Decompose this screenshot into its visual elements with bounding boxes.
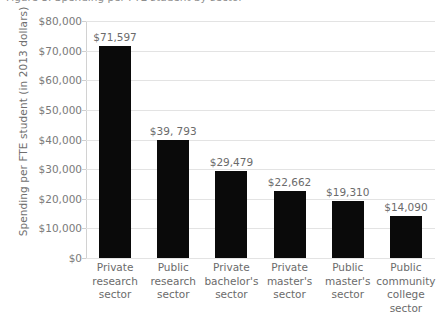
bar-value-label: $22,662 — [268, 176, 311, 188]
bar — [332, 201, 364, 258]
category-label-line: community — [370, 275, 442, 289]
category-label-line: college sector — [370, 288, 442, 315]
cut-off-title: Figure 3. Spending per FTE student by se… — [0, 0, 445, 9]
y-axis-tick-mark — [82, 51, 86, 52]
y-axis-tick-mark — [82, 228, 86, 229]
y-axis-tick-mark — [82, 21, 86, 22]
bar — [157, 140, 189, 258]
bar — [274, 191, 306, 258]
y-axis-tick-label: $10,000 — [39, 222, 82, 234]
gridline — [86, 21, 435, 22]
y-axis-tick-label: $40,000 — [39, 134, 82, 146]
y-axis-tick-mark — [82, 169, 86, 170]
gridline — [86, 169, 435, 170]
y-axis-tick-labels: $80,000$70,000$60,000$50,000$40,000$30,0… — [28, 21, 82, 258]
gridline — [86, 51, 435, 52]
y-axis-tick-label: $50,000 — [39, 104, 82, 116]
gridline — [86, 140, 435, 141]
gridline — [86, 110, 435, 111]
x-axis-category-labels: PrivateresearchsectorPublicresearchsecto… — [86, 261, 435, 319]
bar-value-label: $39, 793 — [150, 125, 197, 137]
y-axis-tick-mark — [82, 199, 86, 200]
bar-value-label: $71,597 — [93, 31, 136, 43]
y-axis-tick-label: $30,000 — [39, 163, 82, 175]
bar-chart: Figure 3. Spending per FTE student by se… — [0, 0, 445, 319]
gridline — [86, 80, 435, 81]
x-axis-category-label: Publiccommunitycollege sector — [370, 261, 442, 315]
gridline — [86, 228, 435, 229]
bar-value-label: $14,090 — [384, 201, 427, 213]
y-axis-tick-label: $80,000 — [39, 15, 82, 27]
y-axis-tick-label: $60,000 — [39, 74, 82, 86]
plot-area: $71,597$39, 793$29,479$22,662$19,310$14,… — [86, 21, 435, 258]
title-text: Figure 3. Spending per FTE student by se… — [6, 0, 243, 3]
bar — [390, 216, 422, 258]
gridline — [86, 258, 435, 259]
bar — [99, 46, 131, 258]
y-axis-tick-mark — [82, 110, 86, 111]
bar-value-label: $29,479 — [210, 156, 253, 168]
y-axis-tick-mark — [82, 80, 86, 81]
bar-value-label: $19,310 — [326, 186, 369, 198]
y-axis-tick-label: $70,000 — [39, 45, 82, 57]
gridline — [86, 199, 435, 200]
bar — [215, 171, 247, 258]
y-axis-tick-mark — [82, 258, 86, 259]
y-axis-tick-label: $20,000 — [39, 193, 82, 205]
y-axis-tick-mark — [82, 140, 86, 141]
category-label-line: Public — [370, 261, 442, 275]
